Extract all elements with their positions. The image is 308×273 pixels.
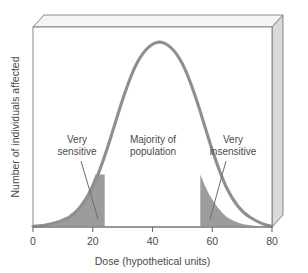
- plot-panel: [33, 27, 272, 227]
- box-right-face: [272, 15, 283, 227]
- x-tick-label-80: 80: [266, 235, 278, 247]
- x-tick-label-40: 40: [147, 235, 159, 247]
- x-axis-ticks: [33, 227, 272, 232]
- x-tick-label-0: 0: [30, 235, 36, 247]
- distribution-chart-svg: 0 20 40 60 80 Dose (hypothetical units) …: [0, 0, 308, 273]
- annotation-very-sensitive-line1: Very: [67, 134, 87, 145]
- y-axis-title: Number of individuals affected: [9, 56, 21, 197]
- annotation-very-insensitive-line1: Very: [223, 134, 243, 145]
- x-axis-title: Dose (hypothetical units): [95, 255, 211, 267]
- annotation-majority-line1: Majority of: [130, 134, 176, 145]
- x-tick-label-20: 20: [87, 235, 99, 247]
- box-top-face: [33, 15, 283, 27]
- annotation-very-sensitive-line2: sensitive: [58, 146, 97, 157]
- annotation-majority-line2: population: [130, 146, 176, 157]
- annotation-very-insensitive-line2: insensitive: [210, 146, 257, 157]
- chart-figure: 0 20 40 60 80 Dose (hypothetical units) …: [0, 0, 308, 273]
- x-tick-label-60: 60: [206, 235, 218, 247]
